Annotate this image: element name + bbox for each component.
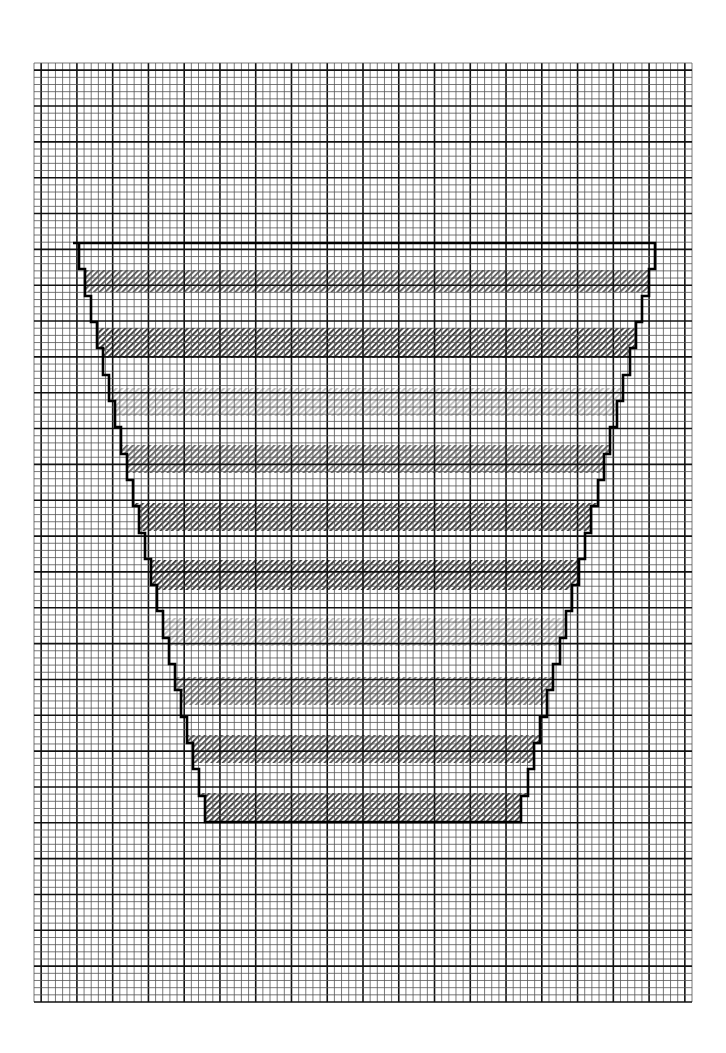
cross-stitch-chart: [0, 0, 726, 1053]
graph-paper-grid: [34, 63, 692, 1002]
